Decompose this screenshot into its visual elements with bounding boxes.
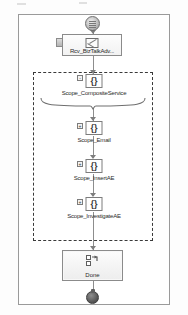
end-terminator-icon[interactable] bbox=[86, 291, 99, 304]
scope-expander-toggle[interactable]: - bbox=[77, 75, 83, 81]
scope-label: Scope_Email bbox=[0, 137, 188, 143]
braces-icon: {} bbox=[86, 197, 103, 211]
done-shape[interactable]: Done bbox=[62, 250, 123, 281]
scope-expander-toggle[interactable]: + bbox=[77, 123, 83, 129]
receive-shape[interactable]: Rcv_BizTalkAdv... bbox=[62, 34, 122, 56]
cropped-toolbar-artifact-right bbox=[79, 2, 87, 4]
receive-shape-label: Rcv_BizTalkAdv... bbox=[63, 48, 121, 54]
envelope-icon bbox=[86, 38, 99, 48]
send-shape-icon bbox=[86, 255, 100, 267]
scope-expander-toggle[interactable]: + bbox=[77, 199, 83, 205]
done-shape-label: Done bbox=[63, 272, 122, 278]
scope-brace bbox=[40, 97, 146, 110]
braces-icon: {} bbox=[86, 159, 103, 173]
cropped-toolbar-artifact-left bbox=[17, 3, 26, 5]
orchestration-canvas: Rcv_BizTalkAdv... - {} Scope_CompositeSe… bbox=[0, 0, 188, 315]
scope-label: Scope_InvestigateAE bbox=[0, 213, 188, 219]
braces-icon: {} bbox=[86, 74, 103, 88]
braces-icon: {} bbox=[86, 121, 103, 135]
scope-label: Scope_CompositeService bbox=[0, 90, 188, 96]
scope-label: Scope_InsertAE bbox=[0, 175, 188, 181]
scope-expander-toggle[interactable]: + bbox=[77, 161, 83, 167]
start-circle-icon[interactable] bbox=[85, 16, 100, 31]
